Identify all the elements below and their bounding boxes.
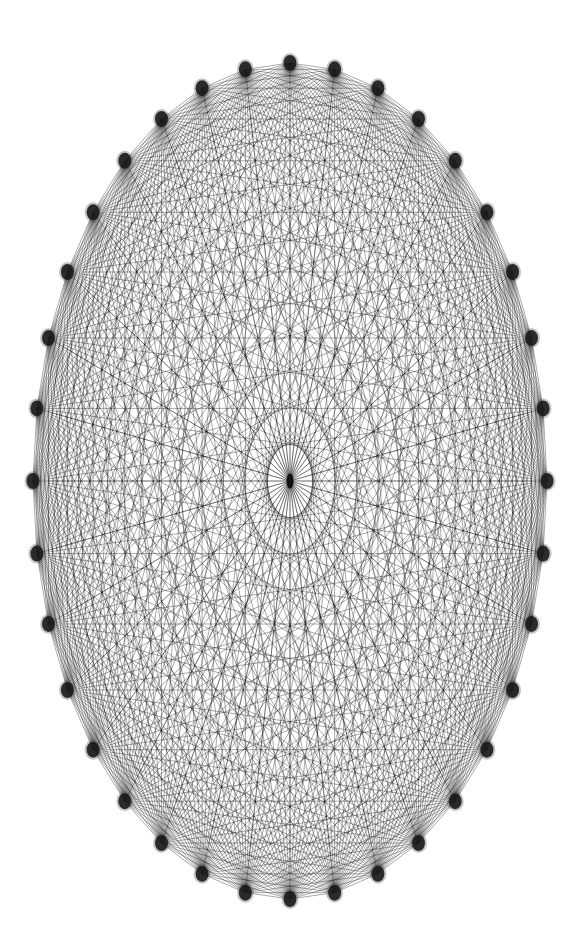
ring-node (506, 264, 519, 280)
ring-node (449, 153, 462, 169)
ring-node (61, 264, 74, 280)
ring-node (525, 616, 538, 632)
ring-node (239, 61, 252, 77)
ring-node (412, 111, 425, 127)
ring-node (42, 616, 55, 632)
ring-node (480, 204, 493, 220)
ring-node (284, 891, 297, 907)
graph-diagram (0, 0, 587, 947)
ring-node (118, 153, 131, 169)
ring-node (525, 330, 538, 346)
ring-node (284, 55, 297, 71)
ring-node (155, 835, 168, 851)
hub-node (287, 474, 294, 489)
ring-node (30, 400, 43, 416)
ring-node (412, 835, 425, 851)
ring-node (480, 742, 493, 758)
ring-node (87, 742, 100, 758)
ring-node (118, 793, 131, 809)
ring-node (27, 473, 40, 489)
ring-node (61, 682, 74, 698)
ring-node (328, 61, 341, 77)
ring-node (155, 111, 168, 127)
ring-node (239, 885, 252, 901)
ring-node (371, 866, 384, 882)
ring-node (506, 682, 519, 698)
ring-node (42, 330, 55, 346)
ring-node (537, 400, 550, 416)
ring-node (541, 473, 554, 489)
ring-node (449, 793, 462, 809)
ring-node (30, 546, 43, 562)
ring-node (328, 885, 341, 901)
ring-node (196, 80, 209, 96)
ring-node (196, 866, 209, 882)
ring-node (87, 204, 100, 220)
ring-node (371, 80, 384, 96)
ring-node (537, 546, 550, 562)
